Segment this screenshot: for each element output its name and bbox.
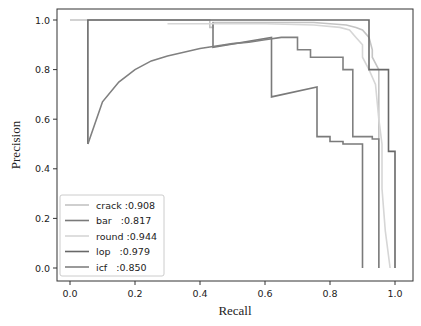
legend-entry: bar :0.817 [96, 215, 151, 226]
legend: crack :0.908bar :0.817round :0.944lop :0… [60, 195, 164, 276]
y-axis-title: Precision [8, 120, 23, 169]
y-tick-label: 1.0 [35, 15, 50, 26]
x-tick-label: 0.8 [322, 288, 337, 299]
y-axis: 0.00.20.40.60.81.0 [35, 15, 57, 274]
pr-curve-chart: 0.00.20.40.60.81.0 0.00.20.40.60.81.0 Re… [0, 0, 421, 326]
x-tick-label: 1.0 [387, 288, 402, 299]
legend-entry: crack :0.908 [96, 200, 155, 211]
x-axis: 0.00.20.40.60.81.0 [62, 281, 402, 299]
y-tick-label: 0.2 [35, 213, 50, 224]
series-line-1 [213, 23, 363, 269]
legend-entry: icf :0.850 [96, 262, 147, 273]
series-line-2 [168, 24, 391, 268]
y-tick-label: 0.0 [35, 263, 50, 274]
y-tick-label: 0.4 [35, 163, 50, 174]
y-tick-label: 0.8 [35, 64, 50, 75]
x-tick-label: 0.6 [257, 288, 272, 299]
x-tick-label: 0.2 [127, 288, 142, 299]
legend-entry: round :0.944 [96, 231, 157, 242]
x-tick-label: 0.0 [62, 288, 77, 299]
legend-entry: lop :0.979 [96, 246, 150, 257]
y-tick-label: 0.6 [35, 114, 50, 125]
x-tick-label: 0.4 [192, 288, 207, 299]
x-axis-title: Recall [218, 303, 252, 318]
